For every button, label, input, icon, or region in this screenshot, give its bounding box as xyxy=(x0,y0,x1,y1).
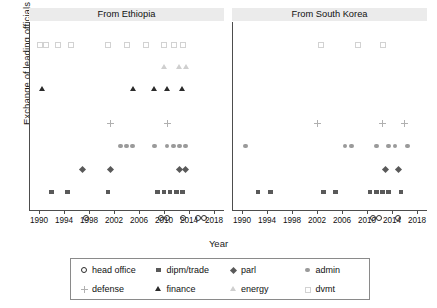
dot-icon xyxy=(304,266,312,274)
x-tick xyxy=(317,211,318,214)
data-point-dipm-trade xyxy=(333,190,338,195)
data-point-defense xyxy=(164,120,171,127)
x-tick xyxy=(214,211,215,214)
data-point-dipm-trade xyxy=(49,190,54,195)
x-tick xyxy=(292,211,293,214)
x-tick-label: 1998 xyxy=(279,216,305,225)
x-tick xyxy=(267,211,268,214)
x-tick-label: 2006 xyxy=(126,216,152,225)
data-point-admin xyxy=(243,144,248,149)
data-point-defense xyxy=(314,120,321,127)
data-point-admin xyxy=(118,144,123,149)
data-point-finance xyxy=(164,86,170,91)
data-point-dvmt xyxy=(180,42,186,48)
y-axis-line xyxy=(232,22,233,210)
x-axis-line xyxy=(232,210,427,211)
data-point-admin xyxy=(124,144,129,149)
data-point-energy xyxy=(161,64,167,69)
data-point-dipm-trade xyxy=(106,190,111,195)
x-tick-label: 1994 xyxy=(254,216,280,225)
legend-label: defense xyxy=(92,284,124,294)
triangle-filled-icon xyxy=(155,285,163,293)
data-point-head-office xyxy=(180,215,186,221)
data-point-parl xyxy=(382,165,389,172)
data-point-dipm-trade xyxy=(386,190,391,195)
x-axis-label: Year xyxy=(0,238,437,249)
x-tick xyxy=(139,211,140,214)
data-point-admin xyxy=(386,144,391,149)
data-point-dvmt xyxy=(318,42,324,48)
diamond-icon xyxy=(229,266,237,274)
data-point-dipm-trade xyxy=(155,190,160,195)
plus-icon xyxy=(80,285,88,293)
x-tick xyxy=(39,211,40,214)
x-tick-label: 2002 xyxy=(304,216,330,225)
x-tick xyxy=(114,211,115,214)
x-tick xyxy=(392,211,393,214)
data-point-head-office xyxy=(164,215,170,221)
square-open-icon xyxy=(304,285,312,293)
x-tick xyxy=(417,211,418,214)
x-tick xyxy=(89,211,90,214)
plot-area-left: 19901994199820022006201020142018 xyxy=(29,22,224,213)
legend-item-head-office[interactable]: head office xyxy=(71,261,146,279)
legend-label: dipm/trade xyxy=(167,265,210,275)
legend-label: parl xyxy=(241,265,256,275)
x-tick-label: 1990 xyxy=(229,216,255,225)
legend-item-defense[interactable]: defense xyxy=(71,280,146,298)
data-point-dvmt xyxy=(171,42,177,48)
scatter-figure: Exchange of leading officials Year From … xyxy=(0,0,437,308)
data-point-dipm-trade xyxy=(399,190,404,195)
data-point-dipm-trade xyxy=(368,190,373,195)
triangle-open-icon xyxy=(229,285,237,293)
legend-label: dvmt xyxy=(316,284,336,294)
data-point-admin xyxy=(343,144,348,149)
data-point-parl xyxy=(182,165,189,172)
data-point-dipm-trade xyxy=(321,190,326,195)
panel-strip-right: From South Korea xyxy=(232,8,427,21)
legend-label: admin xyxy=(316,265,341,275)
x-tick xyxy=(64,211,65,214)
data-point-finance xyxy=(179,86,185,91)
legend-item-dipm-trade[interactable]: dipm/trade xyxy=(146,261,221,279)
data-point-dvmt xyxy=(355,42,361,48)
data-point-energy xyxy=(183,64,189,69)
data-point-parl xyxy=(395,165,402,172)
legend-label: energy xyxy=(241,284,269,294)
data-point-dvmt xyxy=(161,42,167,48)
data-point-admin xyxy=(130,144,135,149)
data-point-finance xyxy=(130,86,136,91)
data-point-dvmt xyxy=(380,42,386,48)
data-point-dvmt xyxy=(55,42,61,48)
x-tick-label: 2014 xyxy=(379,216,405,225)
data-point-dvmt xyxy=(143,42,149,48)
legend-item-admin[interactable]: admin xyxy=(295,261,370,279)
data-point-dipm-trade xyxy=(380,190,385,195)
legend-item-finance[interactable]: finance xyxy=(146,280,221,298)
data-point-finance xyxy=(151,86,157,91)
data-point-energy xyxy=(176,64,182,69)
circle-icon xyxy=(80,266,88,274)
legend-row: head officedipm/tradeparladmin xyxy=(71,261,369,279)
legend-item-energy[interactable]: energy xyxy=(220,280,295,298)
x-tick xyxy=(242,211,243,214)
legend-item-parl[interactable]: parl xyxy=(220,261,295,279)
data-point-dvmt xyxy=(68,42,74,48)
x-tick-label: 2002 xyxy=(101,216,127,225)
data-point-dipm-trade xyxy=(256,190,261,195)
y-axis-line xyxy=(29,22,30,210)
x-tick-label: 2018 xyxy=(404,216,430,225)
legend-item-dvmt[interactable]: dvmt xyxy=(295,280,370,298)
data-point-dvmt xyxy=(105,42,111,48)
panel-strip-left: From Ethiopia xyxy=(29,8,224,21)
data-point-dipm-trade xyxy=(174,190,179,195)
panel-title-right: From South Korea xyxy=(232,9,427,19)
data-point-dipm-trade xyxy=(180,190,185,195)
data-point-parl xyxy=(79,165,86,172)
data-point-admin xyxy=(152,144,157,149)
legend: head officedipm/tradeparladmindefensefin… xyxy=(70,258,370,300)
x-tick-label: 1994 xyxy=(51,216,77,225)
data-point-dipm-trade xyxy=(168,190,173,195)
data-point-dipm-trade xyxy=(374,190,379,195)
legend-label: head office xyxy=(92,265,136,275)
